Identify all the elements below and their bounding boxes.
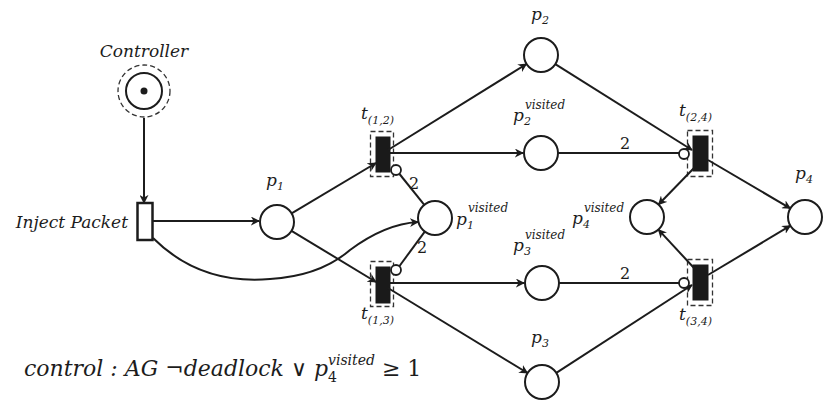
place-p4: [788, 200, 822, 234]
controller-place: [118, 65, 170, 117]
arc-t12-p2: [388, 64, 527, 150]
arc-t34-p4: [708, 226, 790, 275]
arc-p1-t12: [292, 163, 376, 213]
inject-packet-label: Inject Packet: [15, 212, 128, 232]
place-p2: [524, 38, 558, 72]
label-p2-visited: p2visited: [513, 98, 565, 128]
control-formula: control : AG ¬deadlock ∨ p4visited ≥ 1: [24, 352, 421, 385]
label-t34: t(3,4): [679, 304, 712, 328]
transition-t24: [693, 136, 708, 171]
place-p2-visited: [524, 136, 558, 170]
transition-t34: [693, 265, 708, 300]
arc-t24-p4: [708, 160, 790, 208]
arc-t34-p4visited: [658, 230, 694, 268]
weight-p3visited-t34: 2: [620, 264, 630, 283]
label-t24: t(2,4): [679, 100, 712, 124]
token-dot-icon: [141, 88, 148, 95]
label-p4: p4: [795, 163, 813, 186]
arc-p3-t34: [556, 285, 692, 373]
label-t12: t(1,2): [361, 103, 394, 127]
label-p1: p1: [266, 170, 284, 193]
label-p4-visited: p4visited: [572, 201, 624, 231]
place-p1: [260, 205, 294, 239]
place-p3-visited: [525, 266, 559, 300]
inhibitor-circle-t12: [391, 165, 401, 175]
inhibitor-circle-t34: [679, 278, 689, 288]
label-p1-visited: p1visited: [456, 201, 508, 232]
place-p3: [525, 365, 559, 399]
place-p1-visited: [418, 201, 452, 235]
inhibitor-circle-t24: [679, 149, 689, 159]
petri-net-diagram: Controller Inject Packet p1 p1visited t(…: [0, 0, 831, 412]
weight-p1visited-t12: 2: [409, 174, 419, 193]
petri-net-figure: Controller Inject Packet p1 p1visited t(…: [0, 0, 831, 412]
transition-t13: [376, 267, 390, 303]
arc-t24-p4visited: [659, 168, 695, 205]
weight-p1visited-t13: 2: [417, 238, 427, 257]
place-p4-visited: [630, 200, 664, 234]
inject-packet-transition: [138, 203, 153, 240]
label-p2: p2: [531, 4, 549, 27]
controller-label: Controller: [100, 41, 189, 61]
label-p3-visited: p3visited: [513, 228, 565, 258]
transition-t12: [376, 137, 390, 172]
weight-p2visited-t24: 2: [620, 134, 630, 153]
inhibitor-circle-t13: [391, 265, 401, 275]
label-p3: p3: [531, 327, 549, 350]
